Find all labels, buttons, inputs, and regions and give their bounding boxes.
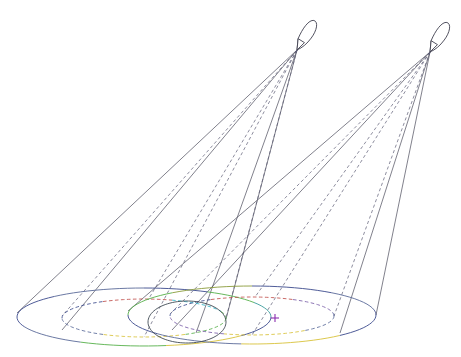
footprint-right-inner-seg-3 <box>333 313 334 316</box>
scene-svg <box>0 0 461 357</box>
aircraft-right-fuselage <box>425 20 453 55</box>
target-point <box>271 314 279 322</box>
footprint-right-outer-seg-2 <box>252 286 332 293</box>
footprint-right-inner-seg-1 <box>211 297 293 300</box>
cone-left-ray-0 <box>17 50 297 313</box>
cone-left-ray-1 <box>62 50 297 330</box>
footprint-right-inner-seg-4 <box>305 316 334 331</box>
footprint-left-inner-seg-1 <box>103 299 172 302</box>
aircraft-layer <box>292 18 453 55</box>
footprint-right-inner-seg-5 <box>224 331 305 335</box>
cone-right-ray-3 <box>340 52 430 333</box>
footprint-right-outer-seg-3 <box>332 293 374 310</box>
footprint-overlap-seg-0 <box>148 301 226 343</box>
cone-right-ray-4 <box>170 52 430 314</box>
cone-left <box>17 50 297 337</box>
aircraft-left-fuselage <box>292 18 320 53</box>
footprint-right-outer-seg-4 <box>374 310 376 315</box>
footprint-left-outer-seg-4 <box>254 303 271 318</box>
footprint-overlap <box>148 301 226 343</box>
footprint-right-inner <box>170 297 334 335</box>
aircraft-left <box>292 18 320 53</box>
target-layer <box>271 314 279 322</box>
footprint-left-outer-seg-7 <box>81 342 167 346</box>
footprint-left-outer-seg-9 <box>17 317 25 327</box>
cone-right-ray-5 <box>252 52 430 335</box>
aircraft-right <box>425 20 453 55</box>
footprint-right-outer-seg-8 <box>128 315 157 334</box>
footprint-left-inner-seg-0 <box>62 302 103 318</box>
footprint-left-outer-seg-0 <box>17 296 54 317</box>
footprint-left-inner-seg-6 <box>62 318 103 334</box>
footprint-left-outer <box>17 288 271 346</box>
footprint-right-outer <box>128 286 376 344</box>
diagram-canvas <box>0 0 461 357</box>
footprint-left-outer-seg-5 <box>241 317 271 336</box>
footprint-right-outer-seg-6 <box>241 336 339 344</box>
footprint-left-outer-seg-8 <box>25 327 81 342</box>
footprint-right-inner-seg-2 <box>293 300 333 313</box>
footprint-left-outer-seg-1 <box>54 288 144 296</box>
cone-right-ray-7 <box>255 52 430 297</box>
cone-right-ray-6 <box>334 52 430 316</box>
cone-left-ray-7 <box>148 50 297 300</box>
footprints-layer <box>17 286 376 346</box>
cone-left-ray-3 <box>196 50 297 333</box>
